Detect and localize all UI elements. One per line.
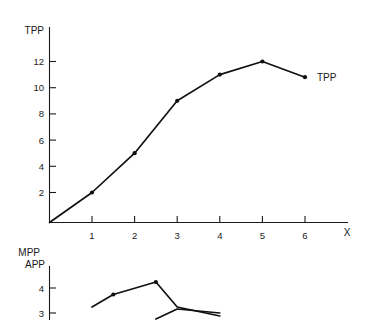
top-chart-y-tick-label: 8 bbox=[39, 108, 44, 119]
tpp-series-label: TPP bbox=[317, 72, 337, 83]
top-chart-y-tick-label: 2 bbox=[39, 187, 44, 198]
charts-canvas: 12 10 8 6 4 2 1 2 3 4 5 6 TPP X TPP bbox=[0, 0, 369, 320]
top-chart-x-tick-label: 6 bbox=[302, 230, 307, 241]
bottom-chart-y-axis-title-app: APP bbox=[25, 259, 45, 270]
top-chart-y-tick-label: 12 bbox=[33, 56, 44, 67]
bottom-chart-y-tick-label: 3 bbox=[39, 308, 44, 319]
top-chart-x-tick-label: 4 bbox=[217, 230, 222, 241]
bottom-chart-y-axis-title-mpp: MPP bbox=[18, 247, 40, 258]
bottom-chart: 4 3 MPP APP bbox=[18, 247, 219, 320]
mpp-data-point bbox=[111, 292, 115, 296]
top-chart-x-axis-title: X bbox=[344, 227, 351, 238]
top-chart-y-tick-label: 4 bbox=[39, 161, 44, 172]
tpp-data-point bbox=[175, 99, 179, 103]
tpp-data-point bbox=[133, 151, 137, 155]
tpp-data-point bbox=[260, 59, 264, 63]
tpp-series-line bbox=[50, 62, 306, 223]
top-chart-x-tick-label: 3 bbox=[175, 230, 180, 241]
tpp-data-point bbox=[303, 75, 307, 79]
top-chart-x-tick-label: 2 bbox=[132, 230, 137, 241]
mpp-data-point bbox=[154, 280, 158, 284]
top-chart-y-axis-title: TPP bbox=[25, 25, 45, 36]
tpp-data-point bbox=[90, 190, 94, 194]
top-chart: 12 10 8 6 4 2 1 2 3 4 5 6 TPP X TPP bbox=[25, 25, 351, 241]
tpp-data-point bbox=[218, 73, 222, 77]
top-chart-x-tick-label: 5 bbox=[260, 230, 265, 241]
chart-page: 12 10 8 6 4 2 1 2 3 4 5 6 TPP X TPP bbox=[0, 0, 369, 320]
top-chart-y-tick-label: 10 bbox=[33, 82, 44, 93]
top-chart-y-tick-label: 6 bbox=[39, 135, 44, 146]
top-chart-x-tick-label: 1 bbox=[89, 230, 94, 241]
bottom-chart-y-tick-label: 4 bbox=[39, 283, 44, 294]
